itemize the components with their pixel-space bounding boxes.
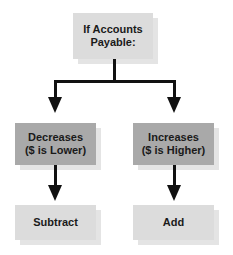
right-branch-line (173, 80, 176, 98)
left-arrow-icon (48, 97, 62, 113)
right-action-box: Add (133, 205, 214, 240)
right-action-label: Add (163, 216, 184, 229)
left-branch-line (54, 80, 57, 98)
root-label: If Accounts Payable: (83, 23, 143, 49)
root-box: If Accounts Payable: (73, 13, 153, 59)
branch-bar (54, 80, 176, 83)
root-stem (113, 59, 116, 82)
right-action-arrow-icon (167, 185, 181, 201)
left-condition-box: Decreases ($ is Lower) (15, 123, 96, 165)
left-action-label: Subtract (33, 216, 78, 229)
right-condition-box: Increases ($ is Higher) (133, 123, 214, 165)
left-action-box: Subtract (15, 205, 96, 240)
right-arrow-icon (167, 97, 181, 113)
left-action-arrow-icon (48, 185, 62, 201)
right-condition-label: Increases ($ is Higher) (142, 131, 206, 157)
left-condition-label: Decreases ($ is Lower) (25, 131, 86, 157)
right-action-line (173, 165, 176, 187)
left-action-line (54, 165, 57, 187)
